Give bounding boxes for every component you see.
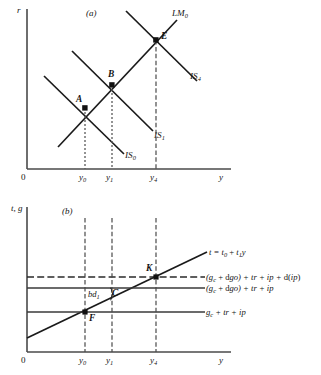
panel-a-x-axis-label: y [218, 172, 223, 182]
curve-label-is1: IS1 [153, 130, 165, 141]
point-a-label: A [75, 94, 82, 104]
panel-a-y-axis-label: r [17, 5, 21, 15]
point-e-marker [153, 37, 158, 42]
curve-label-is4: IS4 [189, 71, 202, 82]
figure-container: r (a) 0 y LM0 IS0 IS1 IS4 A [0, 0, 321, 375]
panel-a-origin-label: 0 [21, 172, 26, 182]
equation-spending-mid: (gc + dgo) + tr + ip [206, 283, 274, 294]
point-e-label: E [160, 31, 167, 41]
panel-a-tick-y0: y0 [78, 172, 87, 183]
panel-b-tick-y1: y1 [105, 355, 113, 366]
point-b-marker [109, 82, 114, 87]
point-c-label: C [112, 288, 119, 298]
curve-label-lm0: LM0 [171, 8, 189, 19]
economics-diagram: r (a) 0 y LM0 IS0 IS1 IS4 A [0, 0, 321, 375]
panel-b-x-axis-label: y [218, 355, 223, 365]
equation-spending-low: gc + tr + ip [206, 307, 246, 318]
point-f-label: F [88, 313, 96, 323]
curve-is4 [126, 11, 197, 81]
point-b-label: B [107, 69, 114, 79]
point-a-marker [82, 105, 87, 110]
panel-b-label: (b) [62, 206, 73, 216]
panel-a-tick-y1: y1 [105, 172, 113, 183]
panel-a: r (a) 0 y LM0 IS0 IS1 IS4 A [17, 5, 231, 183]
panel-a-label: (a) [86, 8, 97, 18]
panel-a-tick-y4: y4 [149, 172, 158, 183]
curve-label-is0: IS0 [124, 150, 137, 161]
point-k-label: K [145, 263, 153, 273]
curve-lm0 [58, 20, 177, 147]
panel-b-tick-y0: y0 [78, 355, 87, 366]
panel-b-tick-y4: y4 [149, 355, 158, 366]
annotation-bd1: bd1 [88, 289, 100, 300]
point-k-marker [153, 274, 158, 279]
equation-spending-high: (gc + dgo) + tr + ip + d(ip) [206, 272, 301, 283]
panel-b-y-axis-label: t, g [11, 203, 23, 213]
point-f-marker [82, 309, 87, 314]
panel-b-origin-label: 0 [21, 355, 26, 365]
panel-b: t, g (b) 0 y t = t0 + t1y (gc + dgo) + t… [11, 203, 301, 366]
equation-tax-line: t = t0 + t1y [209, 247, 246, 258]
